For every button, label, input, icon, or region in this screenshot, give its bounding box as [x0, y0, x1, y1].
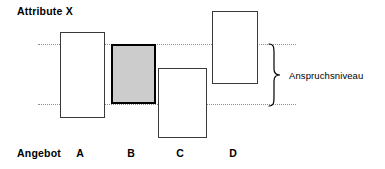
category-label-b: B: [121, 147, 141, 159]
category-label-a: A: [70, 147, 90, 159]
page-title: Attribute X: [17, 5, 73, 17]
category-label-d: D: [223, 147, 243, 159]
bar-a[interactable]: [60, 32, 105, 118]
bar-b[interactable]: [111, 44, 156, 104]
category-axis-label: Angebot: [17, 147, 61, 159]
range-brace-icon: [266, 42, 286, 108]
annotation-label: Anspruchsniveau: [289, 70, 363, 81]
diagram-canvas: Attribute X Anspruchsniveau Angebot A B …: [0, 0, 385, 169]
category-label-c: C: [170, 147, 190, 159]
bar-c[interactable]: [158, 68, 207, 138]
bar-d[interactable]: [212, 11, 258, 84]
